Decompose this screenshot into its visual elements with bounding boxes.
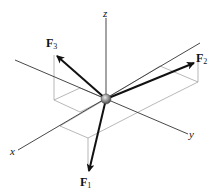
f3-arrow	[57, 56, 106, 99]
axes	[15, 18, 200, 150]
diagram-canvas	[0, 0, 215, 196]
x-axis-label: x	[10, 146, 15, 157]
f1-arrow	[89, 99, 106, 171]
f2-label: F2	[196, 52, 207, 66]
force-diagram: z y x F3 F2 F1	[0, 0, 215, 196]
force-arrows	[57, 56, 194, 171]
f2-arrow	[106, 63, 194, 99]
z-axis-label: z	[103, 8, 107, 19]
particle-sphere	[101, 94, 111, 104]
y-axis-label: y	[189, 129, 194, 140]
f3-label: F3	[46, 37, 57, 51]
f1-label: F1	[80, 176, 91, 190]
